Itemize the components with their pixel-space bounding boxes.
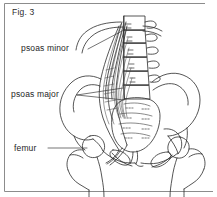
right-ilium — [152, 73, 200, 154]
right-femur — [168, 137, 205, 197]
label-psoas-major: psoas major — [11, 89, 59, 99]
sacrum — [112, 98, 160, 164]
label-psoas-minor: psoas minor — [21, 43, 69, 53]
left-ilium — [60, 76, 103, 151]
figure-caption: Fig. 3 — [12, 7, 34, 17]
figure-panel: .ln { fill:none; stroke:#2b2b2b; stroke-… — [0, 0, 217, 197]
leader-psoas-minor — [88, 30, 124, 49]
label-femur: femur — [14, 143, 36, 153]
